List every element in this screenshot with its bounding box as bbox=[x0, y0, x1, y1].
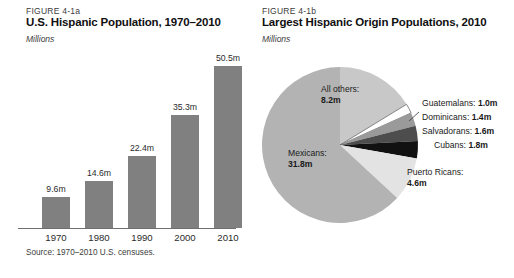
figure-4-1a-panel: FIGURE 4-1a U.S. Hispanic Population, 19… bbox=[0, 0, 257, 278]
pie-label-name-all-others: All others: bbox=[321, 84, 359, 94]
bar-1980 bbox=[85, 181, 113, 228]
pie-label-name-mexicans: Mexicans: bbox=[288, 148, 327, 158]
pie-label-puerto-ricans: Puerto Ricans:4.6m bbox=[407, 167, 463, 188]
pie-label-guatemalans: Guatemalans: 1.0m bbox=[422, 98, 498, 109]
figure-a-units: Millions bbox=[26, 34, 54, 44]
bar-chart-plot-area: 9.6m14.6m22.4m35.3m50.5m bbox=[26, 52, 231, 228]
pie-label-mexicans: Mexicans:31.8m bbox=[288, 148, 327, 169]
bar-1970 bbox=[42, 197, 70, 228]
pie-label-name-puerto-ricans: Puerto Ricans: bbox=[407, 167, 463, 177]
pie-label-name-guatemalans: Guatemalans: bbox=[422, 98, 476, 108]
bar-value-label-1980: 14.6m bbox=[87, 168, 111, 178]
pie-label-name-dominicans: Dominicans: bbox=[422, 112, 469, 122]
bar-value-label-1990: 22.4m bbox=[130, 143, 154, 153]
pie-label-cubans: Cubans: 1.8m bbox=[434, 140, 488, 151]
pie-label-value-dominicans: 1.4m bbox=[472, 112, 492, 122]
bar-value-label-2000: 35.3m bbox=[173, 102, 197, 112]
bar-2010 bbox=[214, 66, 242, 228]
pie-label-value-cubans: 1.8m bbox=[468, 140, 488, 150]
x-tick-label-1980: 1980 bbox=[79, 232, 119, 243]
figure-a-number: FIGURE 4-1a bbox=[26, 6, 80, 16]
figure-4-1b-panel: FIGURE 4-1b Largest Hispanic Origin Popu… bbox=[257, 0, 514, 278]
pie-label-value-mexicans: 31.8m bbox=[288, 159, 312, 169]
pie-label-name-salvadorans: Salvadorans: bbox=[422, 126, 472, 136]
figure-a-title: U.S. Hispanic Population, 1970–2010 bbox=[26, 16, 221, 28]
bar-group-1980: 14.6m bbox=[85, 52, 113, 228]
bar-chart-x-axis bbox=[18, 228, 236, 229]
x-tick-label-1990: 1990 bbox=[122, 232, 162, 243]
figure-a-source-note: Source: 1970–2010 U.S. censuses. bbox=[26, 248, 155, 257]
x-tick-label-2000: 2000 bbox=[165, 232, 205, 243]
bar-group-1970: 9.6m bbox=[42, 52, 70, 228]
pie-label-value-puerto-ricans: 4.6m bbox=[407, 178, 427, 188]
bar-value-label-2010: 50.5m bbox=[216, 53, 240, 63]
pie-label-dominicans: Dominicans: 1.4m bbox=[422, 112, 491, 123]
pie-label-value-salvadorans: 1.6m bbox=[475, 126, 495, 136]
pie-label-salvadorans: Salvadorans: 1.6m bbox=[422, 126, 494, 137]
bar-value-label-1970: 9.6m bbox=[46, 184, 65, 194]
pie-label-all-others: All others:8.2m bbox=[321, 84, 359, 105]
bar-1990 bbox=[128, 156, 156, 228]
pie-label-value-guatemalans: 1.0m bbox=[478, 98, 498, 108]
bar-group-1990: 22.4m bbox=[128, 52, 156, 228]
pie-label-name-cubans: Cubans: bbox=[434, 140, 466, 150]
x-tick-label-1970: 1970 bbox=[36, 232, 76, 243]
pie-chart-graphic bbox=[257, 0, 514, 278]
bar-group-2000: 35.3m bbox=[171, 52, 199, 228]
x-tick-label-2010: 2010 bbox=[208, 232, 248, 243]
pie-label-value-all-others: 8.2m bbox=[321, 95, 341, 105]
bar-2000 bbox=[171, 115, 199, 228]
bar-group-2010: 50.5m bbox=[214, 52, 242, 228]
